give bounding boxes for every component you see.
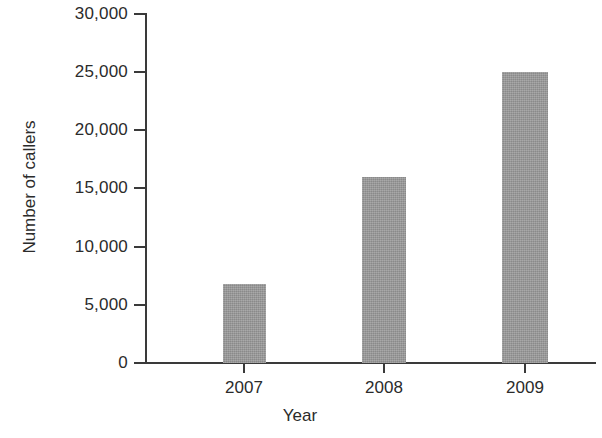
- y-tick-mark: [134, 187, 146, 189]
- x-tick-mark-2007: [243, 363, 245, 373]
- x-tick-mark-2009: [524, 363, 526, 373]
- bar-2007: [223, 284, 266, 363]
- bar-chart-figure: 30,000 25,000 20,000 15,000 10,000 5,000…: [0, 0, 602, 438]
- y-tick-mark: [134, 246, 146, 248]
- x-axis-title: Year: [220, 406, 380, 426]
- y-tick-mark: [134, 304, 146, 306]
- x-tick-label-2008: 2008: [324, 378, 444, 398]
- y-tick-mark: [134, 362, 146, 364]
- y-tick-mark: [134, 129, 146, 131]
- x-tick-label-2009: 2009: [465, 378, 585, 398]
- x-tick-label-2007: 2007: [184, 378, 304, 398]
- y-tick-mark: [134, 13, 146, 15]
- y-tick-label: 30,000: [8, 5, 128, 22]
- y-tick-mark: [134, 71, 146, 73]
- y-tick-label: 25,000: [8, 63, 128, 80]
- bar-2009: [502, 72, 548, 363]
- bar-2008: [362, 177, 406, 363]
- y-axis-title: Number of callers: [21, 87, 39, 287]
- y-tick-label: 5,000: [8, 296, 128, 313]
- x-tick-mark-2008: [383, 363, 385, 373]
- y-tick-label: 0: [8, 354, 128, 371]
